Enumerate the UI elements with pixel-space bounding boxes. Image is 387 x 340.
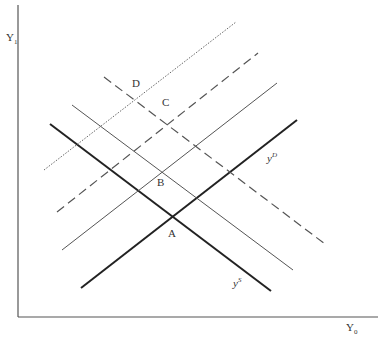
demand-curve-label: yD (267, 152, 277, 164)
x-axis-label-sub: 0 (354, 328, 358, 336)
x-axis-label: Y0 (346, 322, 357, 336)
demand-label-sup: D (272, 151, 277, 159)
dotted-up-curve (44, 22, 236, 170)
point-a-label: A (168, 228, 176, 239)
y-axis-label-text: Y (6, 31, 14, 43)
y-axis-label: Y1 (6, 32, 17, 46)
point-d-label: D (132, 78, 140, 89)
supply-label-sup: S (238, 276, 242, 284)
thin-up-curve (62, 83, 277, 250)
point-c-label: C (162, 97, 169, 108)
diagram-lines (0, 0, 387, 340)
diagram-canvas: Y1 Y0 D C B A yD yS (0, 0, 387, 340)
dashed-up-curve (57, 53, 258, 212)
thin-down-curve (72, 105, 293, 270)
x-axis-label-text: Y (346, 321, 354, 333)
y-axis-label-sub: 1 (14, 38, 18, 46)
dashed-down-curve (104, 77, 325, 244)
supply-curve-label: yS (233, 277, 241, 289)
point-b-label: B (157, 177, 164, 188)
supply-curve-ys (50, 124, 271, 291)
demand-curve-yd (81, 120, 297, 288)
